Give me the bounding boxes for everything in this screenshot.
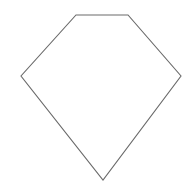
pentagon-shape-svg <box>0 0 193 192</box>
pentagon-outline <box>21 15 181 180</box>
diagram-canvas <box>0 0 193 192</box>
